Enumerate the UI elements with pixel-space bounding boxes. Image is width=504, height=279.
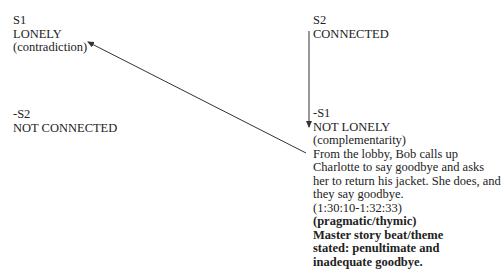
s1-relation: (contradiction) (13, 41, 87, 55)
scene-timecode: (1:30:10-1:32:33) (313, 202, 503, 216)
contradiction-arrow (88, 42, 306, 153)
not-s1-code: -S1 (313, 107, 503, 121)
not-s2-code: -S2 (13, 108, 117, 122)
scene-category: (pragmatic/thymic) (313, 215, 503, 229)
not-s1-relation: (complementarity) (313, 134, 503, 148)
node-s2-connected: S2 CONNECTED (313, 14, 389, 41)
s2-code: S2 (313, 14, 389, 28)
node-not-s1-not-lonely: -S1 NOT LONELY (complementarity) From th… (313, 107, 503, 269)
node-s1-lonely: S1 LONELY (contradiction) (13, 14, 87, 55)
s1-term: LONELY (13, 28, 87, 42)
node-not-s2-not-connected: -S2 NOT CONNECTED (13, 108, 117, 135)
s2-term: CONNECTED (313, 28, 389, 42)
not-s1-term: NOT LONELY (313, 121, 503, 135)
not-s2-term: NOT CONNECTED (13, 122, 117, 136)
s1-code: S1 (13, 14, 87, 28)
story-beat-label: Master story beat/theme stated: penultim… (313, 229, 473, 270)
scene-description: From the lobby, Bob calls up Charlotte t… (313, 148, 503, 202)
